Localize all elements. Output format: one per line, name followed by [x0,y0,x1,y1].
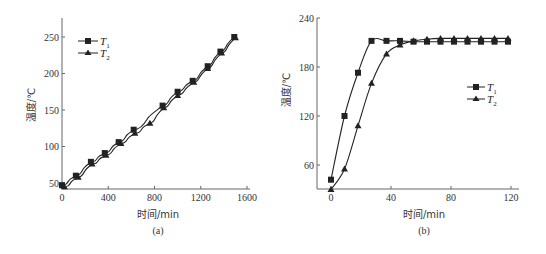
y-tick-label: 250 [44,32,59,43]
data-point-triangle [355,122,362,128]
legend-b: T1 T2 [467,81,497,108]
chart-panel-b: 60120180240 04080120 T1 T2 温度/℃ 时间/min (… [280,13,519,238]
y-tick-label: 180 [299,62,314,73]
y-tick-label: 60 [304,160,314,171]
y-tick-label: 120 [299,111,314,122]
figure: 50100150200250 040080012001600 T1 T2 温度/… [0,0,546,254]
data-point-square [342,113,348,119]
y-tick-label: 150 [44,105,59,116]
chart-panel-a: 50100150200250 040080012001600 T1 T2 温度/… [25,18,257,237]
x-tick-label: 120 [504,192,519,203]
series-line-t2 [331,38,508,189]
x-tick-label: 0 [60,192,65,203]
caption-a: (a) [152,225,163,237]
series-line-t1 [331,39,508,180]
x-tick-label: 0 [329,192,334,203]
y-tick-label: 240 [299,13,314,24]
x-tick-label: 1200 [191,192,211,203]
data-point-square [355,70,361,76]
caption-b: (b) [418,225,430,237]
x-tick-label: 80 [446,192,456,203]
x-tick-label: 1600 [237,192,257,203]
x-tick-label: 400 [101,192,116,203]
legend-a: T1 T2 [78,35,110,62]
x-tick-label: 40 [386,192,396,203]
data-point-triangle [368,80,375,86]
y-tick-label: 100 [44,141,59,152]
y-axis-title-b: 温度/℃ [280,73,292,108]
data-point-square [328,177,334,183]
y-axis-title-a: 温度/℃ [25,88,37,123]
x-axis-title-a: 时间/min [137,208,179,220]
x-axis-title-b: 时间/min [403,208,445,220]
data-point-square [369,38,375,44]
y-tick-label: 200 [44,68,59,79]
series-line-t1 [62,37,234,185]
data-point-square [384,38,390,44]
x-tick-label: 800 [147,192,162,203]
data-point-triangle [341,166,348,172]
y-tick-label: 50 [49,178,59,189]
